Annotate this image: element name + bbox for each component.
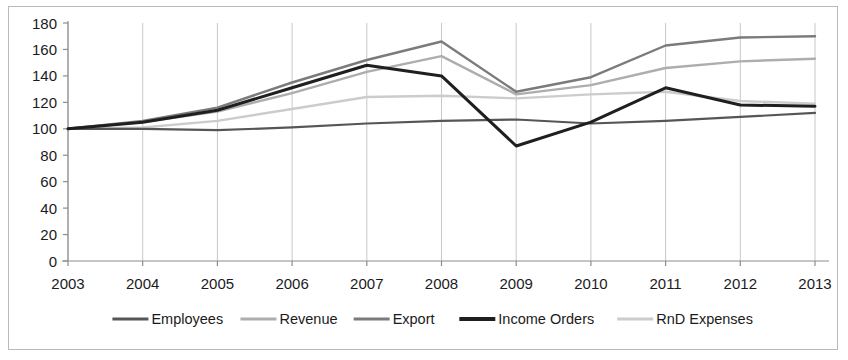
y-tick-label: 40 bbox=[40, 200, 57, 217]
y-tick-label: 20 bbox=[40, 226, 57, 243]
x-tick-label: 2005 bbox=[201, 275, 234, 292]
line-chart: 0204060801001201401601802003200420052006… bbox=[9, 7, 837, 349]
x-tick-label: 2009 bbox=[500, 275, 533, 292]
y-tick-label: 120 bbox=[32, 94, 57, 111]
x-tick-label: 2013 bbox=[798, 275, 831, 292]
y-tick-label: 100 bbox=[32, 120, 57, 137]
y-tick-label: 140 bbox=[32, 67, 57, 84]
chart-frame: 0204060801001201401601802003200420052006… bbox=[8, 6, 838, 350]
y-tick-label: 160 bbox=[32, 41, 57, 58]
x-tick-label: 2011 bbox=[649, 275, 681, 292]
legend-label: Employees bbox=[151, 311, 223, 327]
x-tick-label: 2006 bbox=[275, 275, 308, 292]
y-tick-label: 0 bbox=[49, 253, 57, 270]
x-tick-label: 2008 bbox=[425, 275, 458, 292]
x-tick-label: 2007 bbox=[350, 275, 383, 292]
y-tick-label: 180 bbox=[32, 15, 57, 32]
x-tick-label: 2003 bbox=[51, 275, 84, 292]
legend-label: Export bbox=[393, 311, 435, 327]
legend-label: Revenue bbox=[279, 311, 337, 327]
chart-plot-area: 0204060801001201401601802003200420052006… bbox=[9, 7, 837, 349]
y-tick-label: 60 bbox=[40, 173, 57, 190]
legend-label: RnD Expenses bbox=[656, 311, 753, 327]
x-tick-label: 2010 bbox=[574, 275, 607, 292]
legend-label: Income Orders bbox=[498, 311, 594, 327]
y-tick-label: 80 bbox=[40, 147, 57, 164]
x-tick-label: 2004 bbox=[126, 275, 159, 292]
x-tick-label: 2012 bbox=[724, 275, 757, 292]
